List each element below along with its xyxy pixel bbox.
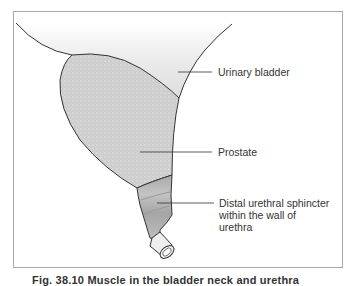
label-urinary-bladder: Urinary bladder [218,66,290,78]
figure-caption: Fig. 38.10 Muscle in the bladder neck an… [32,274,299,286]
label-sphincter-line1: Distal urethral sphincter [219,197,329,209]
label-prostate: Prostate [218,146,257,158]
urethra-tube [150,232,176,261]
label-sphincter-line2: within the wall of [219,209,296,221]
label-sphincter-line3: urethra [219,221,252,233]
